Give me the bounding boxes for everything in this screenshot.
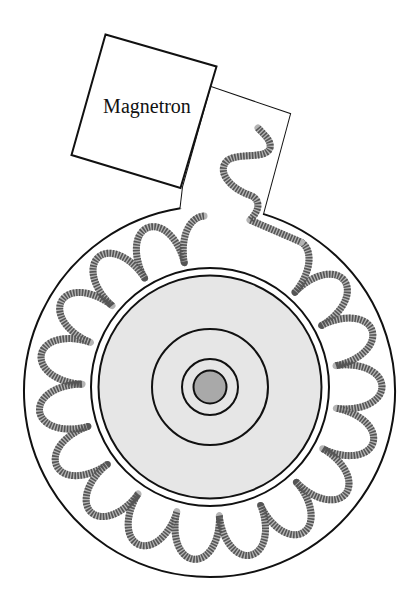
central-core (194, 371, 227, 404)
diagram-canvas: Magnetron (0, 0, 418, 604)
magnetron-label: Magnetron (103, 95, 191, 118)
microwave-applicator-diagram: Magnetron (0, 0, 418, 604)
